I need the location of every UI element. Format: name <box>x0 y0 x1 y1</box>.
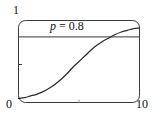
y-axis-min-label: 0 <box>6 98 12 110</box>
threshold-annotation: p = 0.8 <box>50 20 84 32</box>
y-axis-max-label: 1 <box>13 4 19 16</box>
chart-figure: 1 0 10 p = 0.8 <box>0 0 156 124</box>
threshold-value: = 0.8 <box>56 19 84 33</box>
x-axis-max-label: 10 <box>136 98 148 110</box>
